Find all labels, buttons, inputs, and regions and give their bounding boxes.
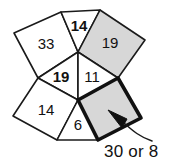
leader-line bbox=[124, 123, 152, 141]
cell-label-11: 11 bbox=[84, 68, 100, 85]
annotation-label: 30 or 8 bbox=[104, 142, 158, 162]
cell-label-14-top: 14 bbox=[71, 17, 88, 34]
cell-label-6: 6 bbox=[74, 116, 82, 133]
cell-label-33: 33 bbox=[38, 35, 55, 52]
geometry-puzzle-figure: 33 14 19 19 11 14 6 30 or 8 bbox=[0, 0, 172, 167]
cell-label-19-top: 19 bbox=[102, 34, 119, 51]
cell-label-14-bottom: 14 bbox=[38, 101, 55, 118]
cell-label-19-mid: 19 bbox=[53, 68, 70, 85]
